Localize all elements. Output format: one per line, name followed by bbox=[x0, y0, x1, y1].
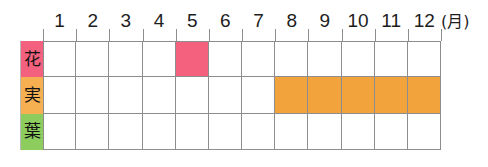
cell-fruit-month-1 bbox=[43, 77, 76, 113]
cell-leaf-month-12 bbox=[408, 114, 441, 150]
row-label-fruit: 実 bbox=[21, 77, 43, 113]
cell-flower-month-7 bbox=[242, 41, 275, 77]
tick-stub-9 bbox=[342, 29, 343, 41]
axis-tick-stubs bbox=[43, 29, 442, 41]
cell-flower-month-2 bbox=[76, 41, 109, 77]
row-label-column: 花 実 葉 bbox=[20, 41, 43, 150]
tick-stub-3 bbox=[143, 29, 144, 41]
axis-unit-label: (月) bbox=[441, 6, 469, 36]
tick-stub-11 bbox=[408, 29, 409, 41]
tick-stub-4 bbox=[176, 29, 177, 41]
cell-fruit-month-11 bbox=[375, 77, 408, 113]
cell-fruit-month-7 bbox=[242, 77, 275, 113]
seasonal-calendar-chart: 1 2 3 4 5 6 7 8 9 10 11 12 (月) 花 実 葉 bbox=[0, 0, 488, 167]
tick-stub-12 bbox=[441, 29, 442, 41]
tick-stub-0 bbox=[43, 29, 44, 41]
cell-leaf-month-7 bbox=[242, 114, 275, 150]
calendar-grid bbox=[43, 41, 441, 150]
cell-flower-month-8 bbox=[275, 41, 308, 77]
cell-flower-month-9 bbox=[308, 41, 341, 77]
cell-fruit-month-12 bbox=[408, 77, 441, 113]
cell-leaf-month-2 bbox=[76, 114, 109, 150]
cell-leaf-month-6 bbox=[209, 114, 242, 150]
cell-leaf-month-5 bbox=[176, 114, 209, 150]
cell-leaf-month-10 bbox=[342, 114, 375, 150]
cell-fruit-month-8 bbox=[275, 77, 308, 113]
tick-stub-8 bbox=[308, 29, 309, 41]
cell-leaf-month-11 bbox=[375, 114, 408, 150]
cell-fruit-month-2 bbox=[76, 77, 109, 113]
cell-flower-month-4 bbox=[143, 41, 176, 77]
table-row-fruit bbox=[43, 77, 441, 113]
tick-stub-1 bbox=[76, 29, 77, 41]
cell-fruit-month-4 bbox=[143, 77, 176, 113]
cell-flower-month-6 bbox=[209, 41, 242, 77]
cell-flower-month-3 bbox=[109, 41, 142, 77]
cell-fruit-month-9 bbox=[308, 77, 341, 113]
tick-stub-10 bbox=[375, 29, 376, 41]
cell-flower-month-11 bbox=[375, 41, 408, 77]
cell-fruit-month-6 bbox=[209, 77, 242, 113]
table-row-flower bbox=[43, 41, 441, 77]
tick-stub-5 bbox=[209, 29, 210, 41]
cell-leaf-month-4 bbox=[143, 114, 176, 150]
row-label-flower: 花 bbox=[21, 41, 43, 77]
cell-fruit-month-10 bbox=[342, 77, 375, 113]
tick-stub-7 bbox=[275, 29, 276, 41]
cell-leaf-month-9 bbox=[308, 114, 341, 150]
table-row-leaf bbox=[43, 114, 441, 150]
cell-leaf-month-3 bbox=[109, 114, 142, 150]
cell-leaf-month-8 bbox=[275, 114, 308, 150]
cell-flower-month-5 bbox=[176, 41, 209, 77]
calendar-grid-rows bbox=[43, 41, 441, 150]
tick-stub-6 bbox=[242, 29, 243, 41]
tick-stub-2 bbox=[109, 29, 110, 41]
cell-leaf-month-1 bbox=[43, 114, 76, 150]
cell-flower-month-10 bbox=[342, 41, 375, 77]
cell-fruit-month-3 bbox=[109, 77, 142, 113]
cell-fruit-month-5 bbox=[176, 77, 209, 113]
cell-flower-month-1 bbox=[43, 41, 76, 77]
cell-flower-month-12 bbox=[408, 41, 441, 77]
row-label-leaf: 葉 bbox=[21, 114, 43, 150]
